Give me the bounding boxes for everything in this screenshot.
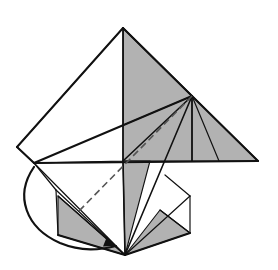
origami-figure-root: Origami fold step diagram Line drawing o…	[0, 0, 278, 270]
origami-diagram: Origami fold step diagram Line drawing o…	[0, 0, 278, 270]
